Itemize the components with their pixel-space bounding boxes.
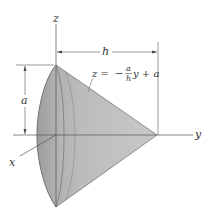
svg-text:z =: z =: [91, 68, 109, 79]
diagram-canvas: z h a y x z = − a h y + a: [0, 0, 208, 224]
a-label: a: [21, 94, 28, 107]
a-arrow-top: [24, 66, 27, 71]
h-arrow-right: [152, 51, 157, 54]
h-label: h: [102, 45, 109, 58]
svg-text:−: −: [115, 68, 123, 79]
a-arrow-bottom: [24, 129, 27, 134]
y-axis-label: y: [194, 128, 202, 141]
cone-base: [37, 65, 64, 207]
x-axis-label: x: [9, 156, 16, 169]
svg-text:a: a: [126, 64, 131, 73]
h-arrow-left: [57, 51, 62, 54]
cone-equation: z = − a h y + a: [91, 64, 159, 83]
cone-diagram: z h a y x z = − a h y + a: [0, 0, 208, 224]
z-axis-label: z: [52, 12, 59, 25]
svg-text:y + a: y + a: [132, 68, 159, 79]
svg-text:h: h: [126, 74, 131, 83]
